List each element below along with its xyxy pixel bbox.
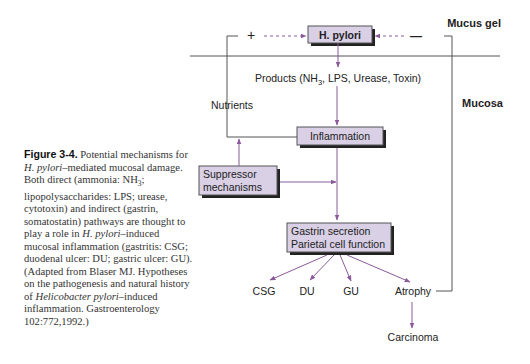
minus-sign: — [410, 29, 422, 43]
arrow-to-atrophy [347, 255, 410, 282]
du-label: DU [299, 285, 314, 297]
arrow-to-gu [340, 255, 351, 281]
nutrients-loop-line [227, 36, 297, 137]
gastrin-label-line1: Gastrin secretion [291, 225, 371, 237]
plus-sign: + [247, 27, 255, 43]
atrophy-loop-line [436, 36, 452, 291]
caption-text-1: Potential mechanisms for [78, 149, 188, 160]
caption-italic-2: H. pylori [82, 228, 120, 239]
caption-italic-3: Helicobacter pylori [35, 291, 118, 302]
carcinoma-label: Carcinoma [388, 331, 439, 343]
inflammation-label: Inflammation [310, 130, 370, 142]
figure-caption: Figure 3-4. Potential mechanisms for H. … [24, 148, 196, 328]
gu-label: GU [343, 285, 359, 297]
inflammation-box: Inflammation [297, 127, 386, 148]
arrow-to-csg [270, 255, 327, 280]
suppressor-label-line2: mechanisms [203, 181, 262, 193]
atrophy-label: Atrophy [395, 285, 432, 297]
arrow-to-du [310, 255, 334, 280]
gastrin-parietal-box: Gastrin secretion Parietal cell function [287, 223, 394, 255]
figure-label: Figure 3-4. [24, 148, 78, 160]
h-pylori-label: H. pylori [319, 29, 361, 41]
nutrients-label: Nutrients [211, 99, 253, 111]
caption-italic-1: H. pylori [24, 162, 62, 173]
suppressor-label-line1: Suppressor [203, 168, 257, 180]
csg-label: CSG [253, 285, 276, 297]
mucosa-label: Mucosa [462, 97, 504, 109]
suppressor-mechanisms-box: Suppressor mechanisms [199, 166, 280, 198]
mucus-gel-label: Mucus gel [447, 17, 501, 29]
h-pylori-box: H. pylori [308, 26, 375, 46]
gastrin-label-line2: Parietal cell function [291, 238, 385, 250]
products-label: Products (NH3, LPS, Urease, Toxin) [255, 72, 421, 87]
